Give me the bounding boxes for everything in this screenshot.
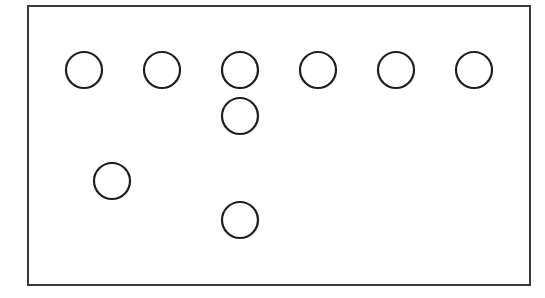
circle-below-3 bbox=[222, 98, 258, 134]
diagram-frame bbox=[28, 6, 530, 285]
circle-left-mid bbox=[94, 163, 130, 199]
circle-top-row-2 bbox=[144, 52, 180, 88]
circle-top-row-1 bbox=[66, 52, 102, 88]
circle-top-row-6 bbox=[456, 52, 492, 88]
circle-bottom-3 bbox=[222, 202, 258, 238]
circle-top-row-5 bbox=[378, 52, 414, 88]
circle-group bbox=[66, 52, 492, 238]
diagram-canvas bbox=[0, 0, 545, 298]
circle-top-row-3 bbox=[222, 52, 258, 88]
circle-top-row-4 bbox=[300, 52, 336, 88]
